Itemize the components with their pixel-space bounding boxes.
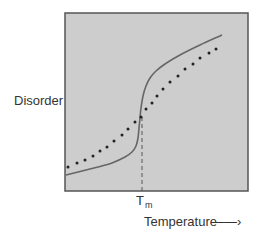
data-point xyxy=(140,116,143,119)
data-point xyxy=(151,102,154,105)
data-point xyxy=(162,88,165,91)
data-point xyxy=(106,146,109,149)
data-point xyxy=(92,155,95,158)
tm-subscript: m xyxy=(145,200,153,210)
data-point xyxy=(145,108,148,111)
data-point xyxy=(121,134,124,137)
plot-area xyxy=(65,13,248,191)
data-point xyxy=(184,68,187,71)
data-point xyxy=(215,48,218,51)
data-point xyxy=(208,52,211,55)
data-point xyxy=(199,57,202,60)
x-axis-label: Temperature xyxy=(144,214,217,229)
data-point xyxy=(192,63,195,66)
data-point xyxy=(76,162,79,165)
data-point xyxy=(127,128,130,131)
data-point xyxy=(113,140,116,143)
data-point xyxy=(169,81,172,84)
data-point xyxy=(99,150,102,153)
data-point xyxy=(177,75,180,78)
tm-main: T xyxy=(136,193,144,208)
y-axis-label: Disorder xyxy=(14,93,63,108)
data-point xyxy=(156,95,159,98)
data-point xyxy=(134,121,137,124)
data-point xyxy=(67,166,70,169)
data-point xyxy=(84,159,87,162)
chart-plot xyxy=(0,0,264,240)
x-tick-label-tm: Tm xyxy=(136,193,152,210)
arrow-right-icon: ——› xyxy=(211,214,241,229)
